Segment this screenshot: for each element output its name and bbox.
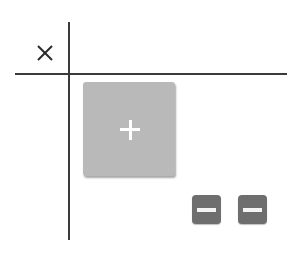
add-glyph: +	[83, 82, 84, 83]
horizontal-divider	[15, 73, 287, 75]
close-button[interactable]: ×	[36, 44, 54, 62]
remove-glyph: −	[238, 195, 239, 196]
vertical-divider	[68, 22, 70, 240]
close-icon	[36, 44, 54, 62]
minus-icon	[197, 208, 216, 212]
grid-editor-canvas: × + − −	[0, 0, 295, 266]
remove-button-1[interactable]: −	[192, 195, 221, 224]
remove-button-2[interactable]: −	[238, 195, 267, 224]
remove-glyph: −	[192, 195, 193, 196]
plus-icon-vertical-bar	[129, 120, 132, 140]
close-glyph: ×	[36, 62, 37, 63]
add-button[interactable]: +	[83, 82, 175, 176]
minus-icon	[243, 208, 262, 212]
